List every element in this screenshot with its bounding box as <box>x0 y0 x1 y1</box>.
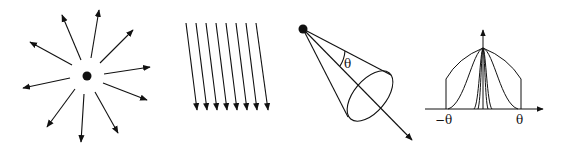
lighting-diagram: θ −θ θ <box>0 0 567 152</box>
neg-theta-label: −θ <box>435 113 452 127</box>
point-light-panel <box>23 10 150 142</box>
spot-light-panel: θ <box>299 25 413 141</box>
light-source-dot <box>83 72 92 81</box>
directional-light-panel <box>186 23 268 110</box>
pos-theta-label: θ <box>516 113 523 127</box>
theta-label: θ <box>344 57 351 71</box>
spot-falloff-plot-panel: −θ θ <box>425 30 543 127</box>
